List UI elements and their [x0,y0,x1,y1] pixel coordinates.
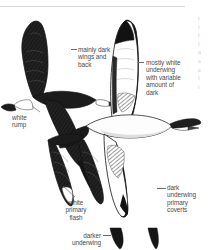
leader-darker-underwing [103,235,111,236]
label-mainly-dark-wings-and-back: mainly dark wings and back [78,46,126,68]
label-white-rump: white rump [12,114,42,129]
leader-mainly-dark [71,49,77,50]
label-mostly-white-underwing: mostly white underwing with variable amo… [146,59,198,96]
cropped-body-text: t i t l u a a l t [198,14,211,114]
label-darker-underwing: darker underwing [49,232,101,247]
bird-pale-underwing [111,20,139,128]
illustration-plate: mainly dark wings and back mostly white … [0,0,211,250]
label-dark-underwing-primary-coverts: dark underwing primary coverts [167,184,211,214]
leader-mostly-white [138,62,144,63]
wingtip-marks [110,228,158,249]
label-white-primary-flash: white primary flash [56,199,96,221]
leader-dark-underwing-coverts [157,188,166,189]
